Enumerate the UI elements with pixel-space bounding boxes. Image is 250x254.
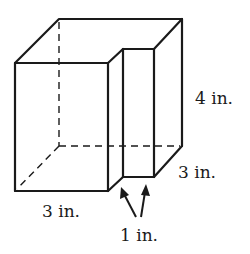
notch-bottom-diagonal — [108, 177, 123, 191]
hidden-diagonal-edge — [17, 146, 59, 189]
top-right-diagonal — [154, 19, 182, 49]
height-label: 4 in. — [195, 88, 233, 108]
prism-diagram: 4 in. 3 in. 3 in. 1 in. — [0, 0, 250, 254]
notch-arrow-right — [141, 192, 145, 217]
notch-label: 1 in. — [120, 225, 158, 245]
notch-arrow-left — [124, 194, 136, 217]
top-back-edges — [15, 19, 182, 63]
width-label: 3 in. — [42, 201, 80, 221]
notch-top-left-diagonal — [108, 49, 123, 63]
notch-arrowhead-left — [120, 187, 129, 199]
notch-arrowhead-right — [141, 184, 150, 196]
depth-label: 3 in. — [178, 162, 216, 182]
